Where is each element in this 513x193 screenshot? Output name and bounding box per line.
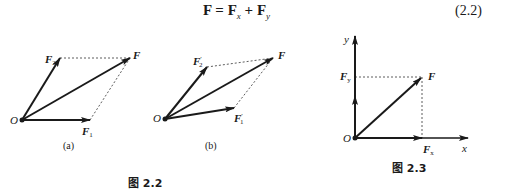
origin-label: O [343, 132, 351, 144]
dashed-line [90, 58, 130, 120]
vector-f-arrow [22, 58, 130, 120]
fy-label: Fy [339, 70, 351, 84]
f-label: F [277, 49, 286, 61]
origin-label: O [153, 112, 161, 124]
figure-2-3: y Fy F O Fx x [339, 33, 468, 157]
vector-f2-arrow [22, 58, 60, 120]
panel-b-label: (b) [205, 140, 217, 152]
origin-dot [163, 117, 168, 122]
origin-label: O [10, 114, 18, 126]
origin-dot [353, 136, 358, 141]
vector-f2-prime-arrow [165, 67, 207, 119]
f1-prime-label: F′1 [233, 112, 244, 126]
figure-2-3-caption: 图 2.3 [392, 162, 426, 175]
f-label: F [427, 70, 436, 82]
dashed-line [234, 58, 273, 108]
fx-label: Fx [422, 143, 434, 157]
f-label: F [132, 49, 141, 61]
origin-dot [20, 118, 25, 123]
x-axis-label: x [461, 142, 467, 154]
figures-canvas: O F2 F F1 (a) O F′2 F F′1 (b) 图 2.2 y Fy… [0, 0, 513, 193]
f1-label: F1 [81, 125, 93, 139]
y-axis-label: y [343, 33, 349, 45]
figure-2-2a: O F2 F F1 (a) [10, 49, 141, 152]
panel-a-label: (a) [63, 140, 74, 152]
f2-prime-label: F′2 [192, 55, 203, 69]
figure-2-2b: O F′2 F F′1 (b) [153, 49, 286, 152]
figure-2-2-caption: 图 2.2 [128, 177, 162, 190]
vector-f-arrow [355, 78, 421, 138]
f2-label: F2 [44, 53, 56, 67]
